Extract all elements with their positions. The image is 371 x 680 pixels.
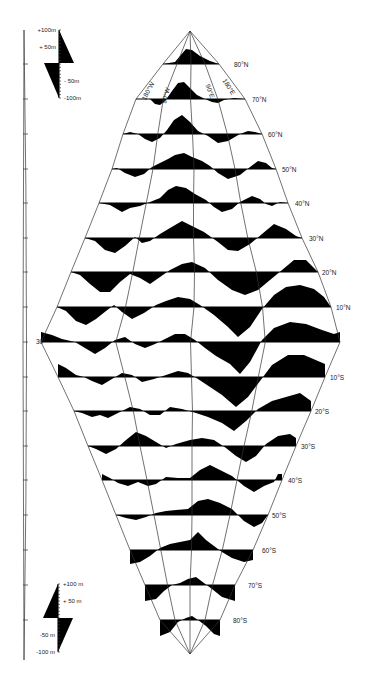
latitude-label: 30°N bbox=[309, 235, 324, 242]
scale-curve-left bbox=[23, 30, 24, 660]
latitude-label: 40°S bbox=[288, 477, 303, 484]
equator-scale-label: 30° bbox=[36, 338, 46, 345]
scale-label-m50: -50 m bbox=[40, 632, 55, 638]
latitude-label: 80°S bbox=[233, 617, 248, 624]
scale-label-p100: +100 m bbox=[63, 581, 83, 587]
latitude-label: 30°S bbox=[301, 443, 316, 450]
scale-label-m100: -100m bbox=[64, 95, 81, 101]
latitude-label: 50°N bbox=[282, 166, 297, 173]
meridian-label: 180°E bbox=[221, 77, 237, 96]
geoid-profile-diagram: +100m+ 50m- 50m-100m +100 m+ 50 m-50 m-1… bbox=[0, 0, 371, 680]
latitude-label: 50°S bbox=[272, 512, 287, 519]
scale-label-m50: - 50m bbox=[64, 78, 79, 84]
scale-label-p50: + 50 m bbox=[63, 598, 82, 604]
scale-label-p100: +100m bbox=[37, 27, 56, 33]
latitude-label: 20°N bbox=[322, 269, 337, 276]
latitude-label: 60°S bbox=[262, 547, 277, 554]
latitude-label: 40°N bbox=[295, 200, 310, 207]
scale-label-p50: + 50m bbox=[39, 44, 56, 50]
negative-wedge bbox=[58, 618, 73, 652]
latitude-label: 70°N bbox=[252, 96, 267, 103]
latitude-label: 10°N bbox=[336, 304, 351, 311]
negative-wedge bbox=[44, 63, 59, 98]
positive-wedge bbox=[59, 30, 74, 63]
positive-wedge bbox=[43, 584, 58, 618]
latitude-label: 60°N bbox=[268, 131, 283, 138]
scale-label-m100: -100 m bbox=[36, 649, 55, 655]
latitude-label: 20°S bbox=[315, 408, 330, 415]
meridian-label: 90°E bbox=[205, 83, 217, 99]
latitude-label: 70°S bbox=[248, 582, 263, 589]
height-scale-top: +100m+ 50m- 50m-100m bbox=[37, 27, 81, 101]
latitude-scale-bar bbox=[23, 30, 28, 660]
height-scale-bottom: +100 m+ 50 m-50 m-100 m bbox=[36, 581, 83, 655]
latitude-label: 80°N bbox=[234, 61, 249, 68]
scale-curve-right bbox=[24, 30, 27, 660]
latitude-label: 10°S bbox=[330, 374, 345, 381]
